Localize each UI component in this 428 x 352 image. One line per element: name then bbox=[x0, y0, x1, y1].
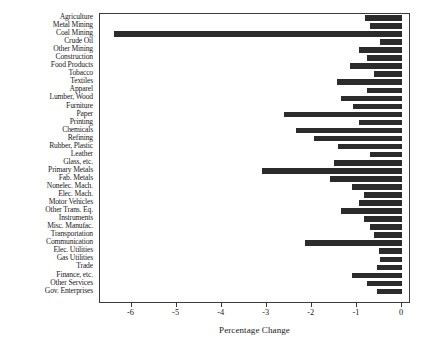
x-axis-tick-label: -1 bbox=[352, 308, 359, 317]
bar-row bbox=[100, 78, 409, 86]
bar bbox=[296, 128, 402, 134]
bar-row bbox=[100, 263, 409, 271]
bar bbox=[380, 39, 402, 45]
x-axis-tick-label: -2 bbox=[307, 308, 314, 317]
bar-row bbox=[100, 22, 409, 30]
bar bbox=[365, 15, 402, 21]
x-axis-tick-mark bbox=[401, 303, 402, 307]
bar bbox=[367, 281, 402, 287]
bar-row bbox=[100, 288, 409, 296]
bar-row bbox=[100, 143, 409, 151]
bar bbox=[377, 265, 402, 271]
bar bbox=[338, 144, 402, 150]
bar bbox=[341, 96, 402, 102]
bar bbox=[352, 184, 402, 190]
bar-row bbox=[100, 159, 409, 167]
bar-row bbox=[100, 54, 409, 62]
bar-row bbox=[100, 94, 409, 102]
bar-row bbox=[100, 223, 409, 231]
x-axis-tick-mark bbox=[356, 303, 357, 307]
bar bbox=[367, 55, 402, 61]
bar-row bbox=[100, 151, 409, 159]
bar-row bbox=[100, 199, 409, 207]
plot-panel bbox=[99, 13, 410, 303]
bar-row bbox=[100, 135, 409, 143]
bar bbox=[305, 240, 402, 246]
bar-series bbox=[100, 14, 409, 302]
x-axis-tick-label: 0 bbox=[399, 308, 403, 317]
x-axis-tick-mark bbox=[311, 303, 312, 307]
x-axis-tick-mark bbox=[131, 303, 132, 307]
bar bbox=[367, 88, 402, 94]
bar-row bbox=[100, 70, 409, 78]
bar bbox=[379, 248, 402, 254]
bar bbox=[377, 289, 402, 295]
bar bbox=[370, 23, 402, 29]
bar-row bbox=[100, 127, 409, 135]
bar-row bbox=[100, 14, 409, 22]
bar-row bbox=[100, 191, 409, 199]
bar bbox=[341, 208, 402, 214]
bar-row bbox=[100, 86, 409, 94]
bar-row bbox=[100, 231, 409, 239]
bar-row bbox=[100, 46, 409, 54]
bar bbox=[364, 192, 402, 198]
bar-row bbox=[100, 280, 409, 288]
bar-row bbox=[100, 175, 409, 183]
bar-row bbox=[100, 183, 409, 191]
bar bbox=[350, 63, 402, 69]
x-axis-tick-label: -5 bbox=[172, 308, 179, 317]
x-axis-title: Percentage Change bbox=[99, 325, 410, 335]
bar bbox=[374, 71, 402, 77]
bar bbox=[374, 232, 402, 238]
x-axis-tick-mark bbox=[176, 303, 177, 307]
bar bbox=[370, 152, 402, 158]
y-axis-tick-label: Gov. Enterprises bbox=[0, 287, 96, 295]
bar bbox=[370, 224, 402, 230]
bar bbox=[330, 176, 402, 182]
bar bbox=[359, 200, 402, 206]
chart-figure: AgricultureMetal MiningCoal MiningCrude … bbox=[0, 0, 428, 352]
bar-row bbox=[100, 207, 409, 215]
x-axis-tick-label: -4 bbox=[217, 308, 224, 317]
x-axis-tick-mark bbox=[221, 303, 222, 307]
y-axis-category-labels: AgricultureMetal MiningCoal MiningCrude … bbox=[0, 13, 96, 303]
x-axis-tick-label: -6 bbox=[127, 308, 134, 317]
bar bbox=[262, 168, 402, 174]
bar-row bbox=[100, 30, 409, 38]
bar bbox=[337, 79, 402, 85]
bar bbox=[314, 136, 402, 142]
bar-row bbox=[100, 38, 409, 46]
bar-row bbox=[100, 272, 409, 280]
bar-row bbox=[100, 255, 409, 263]
bar bbox=[364, 216, 402, 222]
bar-row bbox=[100, 247, 409, 255]
bar-row bbox=[100, 111, 409, 119]
bar-row bbox=[100, 119, 409, 127]
bar bbox=[380, 257, 402, 263]
bar bbox=[359, 47, 402, 53]
bar-row bbox=[100, 62, 409, 70]
bar-row bbox=[100, 167, 409, 175]
bar bbox=[334, 160, 402, 166]
bar bbox=[284, 112, 402, 118]
bar bbox=[359, 120, 402, 126]
bar bbox=[353, 104, 402, 110]
bar bbox=[352, 273, 402, 279]
x-axis-tick-mark bbox=[266, 303, 267, 307]
bar-row bbox=[100, 103, 409, 111]
x-axis-tick-label: -3 bbox=[262, 308, 269, 317]
bar-row bbox=[100, 239, 409, 247]
bar bbox=[114, 31, 402, 37]
bar-row bbox=[100, 215, 409, 223]
